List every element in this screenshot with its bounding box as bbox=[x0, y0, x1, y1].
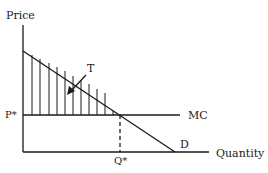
arrow-icon bbox=[67, 75, 86, 95]
diagram-canvas: Price Quantity MC D P* Q* T bbox=[0, 0, 268, 173]
y-axis-label: Price bbox=[6, 9, 35, 22]
hatched-region bbox=[32, 55, 113, 115]
quantity-star-label: Q* bbox=[114, 155, 127, 166]
mc-label: MC bbox=[188, 109, 208, 122]
supply-demand-diagram: Price Quantity MC D P* Q* T bbox=[0, 0, 268, 173]
price-star-label: P* bbox=[5, 109, 17, 120]
demand-label: D bbox=[180, 138, 189, 151]
surplus-label: T bbox=[87, 62, 95, 75]
demand-line bbox=[23, 51, 175, 152]
x-axis-label: Quantity bbox=[216, 147, 265, 160]
